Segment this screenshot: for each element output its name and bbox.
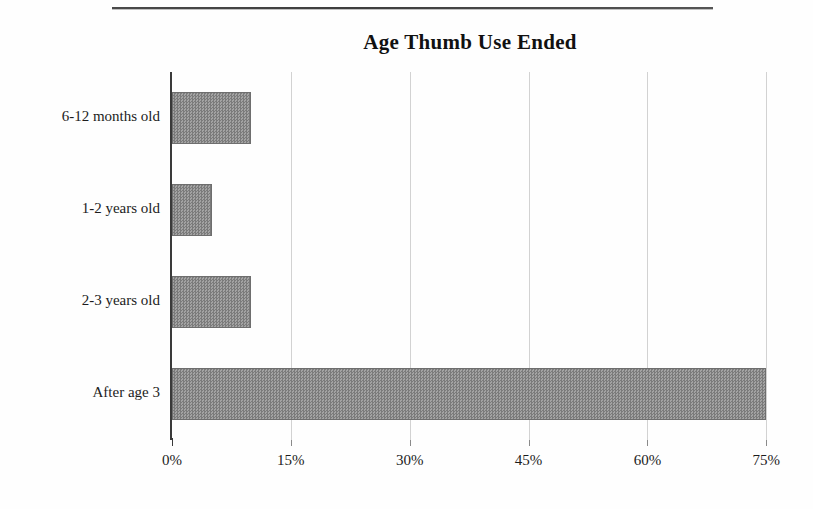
x-tick-label: 30%: [396, 452, 424, 469]
x-tick-mark: [529, 440, 530, 446]
x-tick-label: 45%: [515, 452, 543, 469]
bar: [172, 92, 251, 144]
gridline-75: [766, 72, 767, 440]
bar: [172, 368, 766, 420]
plot-area: [172, 72, 790, 440]
header-rule-shadow: [112, 9, 713, 10]
category-label: 1-2 years old: [0, 200, 160, 217]
category-label: After age 3: [0, 384, 160, 401]
category-label: 6-12 months old: [0, 108, 160, 125]
chart-title: Age Thumb Use Ended: [0, 30, 813, 55]
x-tick-label: 15%: [277, 452, 305, 469]
bar: [172, 184, 212, 236]
category-axis-labels: 6-12 months old1-2 years old2-3 years ol…: [0, 72, 160, 440]
bar: [172, 276, 251, 328]
x-tick-mark: [291, 440, 292, 446]
x-tick-label: 0%: [162, 452, 182, 469]
category-label: 2-3 years old: [0, 292, 160, 309]
chart-page: Age Thumb Use Ended 6-12 months old1-2 y…: [0, 0, 813, 509]
x-tick-mark: [410, 440, 411, 446]
x-tick-label: 60%: [634, 452, 662, 469]
x-tick-mark: [766, 440, 767, 446]
x-tick-label: 75%: [752, 452, 780, 469]
x-tick-mark: [647, 440, 648, 446]
x-tick-mark: [172, 438, 173, 446]
